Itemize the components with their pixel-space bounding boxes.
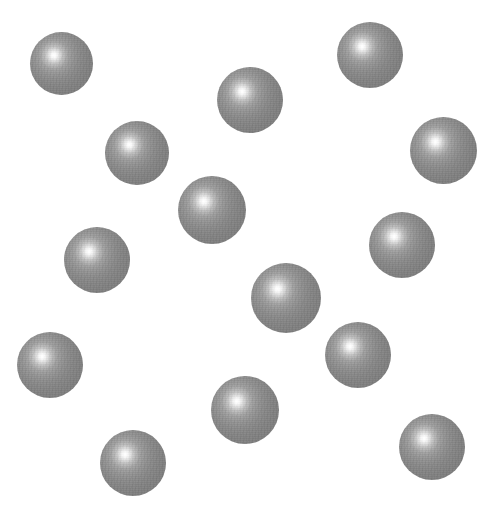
- sphere-grain-texture: [217, 67, 283, 133]
- sphere: [337, 22, 403, 88]
- sphere: [30, 32, 93, 95]
- sphere: [105, 121, 169, 185]
- sphere-grain-texture: [410, 117, 477, 184]
- sphere: [369, 212, 435, 278]
- sphere-highlight: [30, 32, 93, 95]
- sphere: [251, 263, 321, 333]
- sphere-highlight: [100, 430, 166, 496]
- sphere: [64, 227, 130, 293]
- sphere-highlight: [64, 227, 130, 293]
- sphere: [325, 322, 391, 388]
- sphere-grain-texture: [17, 332, 83, 398]
- sphere: [211, 376, 279, 444]
- sphere: [410, 117, 477, 184]
- sphere: [217, 67, 283, 133]
- sphere-highlight: [178, 176, 246, 244]
- sphere-grain-texture: [100, 430, 166, 496]
- sphere: [17, 332, 83, 398]
- sphere: [399, 414, 465, 480]
- sphere: [178, 176, 246, 244]
- sphere-highlight: [399, 414, 465, 480]
- sphere-highlight: [211, 376, 279, 444]
- sphere-highlight: [410, 117, 477, 184]
- sphere-grain-texture: [251, 263, 321, 333]
- sphere-grain-texture: [337, 22, 403, 88]
- sphere-highlight: [251, 263, 321, 333]
- sphere-grain-texture: [64, 227, 130, 293]
- sphere-highlight: [337, 22, 403, 88]
- sphere-highlight: [369, 212, 435, 278]
- sphere-highlight: [105, 121, 169, 185]
- sphere-highlight: [217, 67, 283, 133]
- sphere-grain-texture: [369, 212, 435, 278]
- sphere-grain-texture: [211, 376, 279, 444]
- sphere: [100, 430, 166, 496]
- sphere-grain-texture: [178, 176, 246, 244]
- sphere-grain-texture: [399, 414, 465, 480]
- sphere-highlight: [17, 332, 83, 398]
- sphere-grain-texture: [105, 121, 169, 185]
- sphere-scene: [0, 0, 502, 515]
- sphere-highlight: [325, 322, 391, 388]
- sphere-grain-texture: [325, 322, 391, 388]
- sphere-grain-texture: [30, 32, 93, 95]
